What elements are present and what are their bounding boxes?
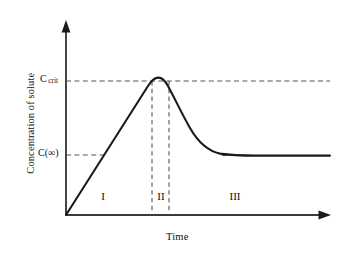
- c-crit-subscript: crit: [48, 76, 58, 85]
- arrow-right-icon: [319, 211, 332, 220]
- c-infinity-axis-label: C(∞): [38, 148, 58, 158]
- c-infinity-symbol: C(∞): [38, 147, 58, 158]
- plot-canvas: [0, 0, 350, 256]
- region-label-i: I: [92, 191, 114, 202]
- arrow-up-icon: [62, 20, 71, 33]
- concentration-vs-time-figure: Concentration of solute Time Ccrit C(∞) …: [0, 0, 350, 256]
- region-label-ii: II: [150, 191, 172, 202]
- y-axis-title: Concentration of solute: [26, 48, 37, 198]
- c-crit-axis-label: Ccrit: [40, 74, 58, 84]
- region-label-iii: III: [222, 191, 248, 202]
- c-crit-symbol: C: [40, 73, 47, 84]
- x-axis-title: Time: [166, 232, 189, 243]
